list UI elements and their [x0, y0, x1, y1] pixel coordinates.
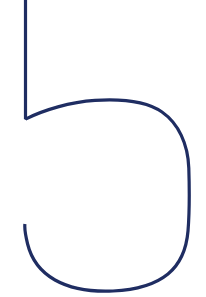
- image-canvas: Large hand-drawn outline of the numeral …: [0, 0, 206, 297]
- numeral-five-glyph: [0, 0, 206, 297]
